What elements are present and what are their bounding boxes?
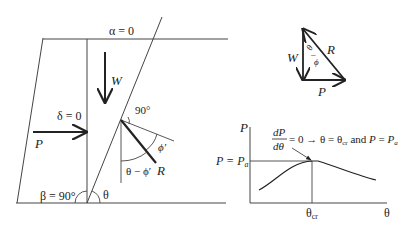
annotation-dp: dP <box>273 126 286 138</box>
triangle-angle-phi: ϕ <box>314 57 319 67</box>
y-tick-pa-label: P = Pa <box>215 154 249 169</box>
annotation-equation: = 0 → θ = θcr and P = Pa <box>289 133 398 147</box>
force-triangle: W R P θ – ϕ <box>287 29 345 99</box>
p-theta-curve <box>259 161 376 190</box>
diagram-canvas: W α = 0 P δ = 0 β = 90° θ R 90° ϕ′ θ − ϕ… <box>0 0 414 226</box>
phi-label: ϕ′ <box>158 141 167 153</box>
alpha-label: α = 0 <box>109 24 134 38</box>
right-angle-label: 90° <box>135 104 150 116</box>
triangle-reaction-side <box>303 29 345 80</box>
theta-minus-phi-arc <box>121 152 147 161</box>
chart-y-axis-label: P <box>239 120 248 135</box>
theta-base-label: θ <box>103 188 109 202</box>
beta-angle-arc <box>75 191 87 203</box>
triangle-thrust-label: P <box>317 84 326 99</box>
annotation-pointer <box>292 148 311 160</box>
delta-label: δ = 0 <box>57 109 81 123</box>
triangle-weight-label: W <box>287 50 299 65</box>
wall-left-edge <box>17 38 43 203</box>
derivative-annotation: dP dθ = 0 → θ = θcr and P = Pa <box>272 126 398 152</box>
theta-minus-phi-label: θ − ϕ′ <box>126 165 151 177</box>
weight-label: W <box>111 73 123 88</box>
p-theta-chart: P θ P = Pa θcr dP dθ = 0 → θ = θcr and P… <box>215 120 398 221</box>
x-tick-theta-cr-label: θcr <box>306 206 318 221</box>
retaining-wall-figure: W α = 0 P δ = 0 β = 90° θ R 90° ϕ′ θ − ϕ… <box>16 17 228 203</box>
theta-angle-arc <box>92 191 100 203</box>
thrust-label: P <box>34 136 43 151</box>
triangle-reaction-label: R <box>326 42 335 57</box>
phi-angle-arc <box>146 134 157 150</box>
annotation-dtheta: dθ <box>273 140 285 152</box>
beta-label: β = 90° <box>40 189 76 203</box>
chart-x-axis-label: θ <box>384 206 390 220</box>
reaction-label: R <box>156 163 165 178</box>
